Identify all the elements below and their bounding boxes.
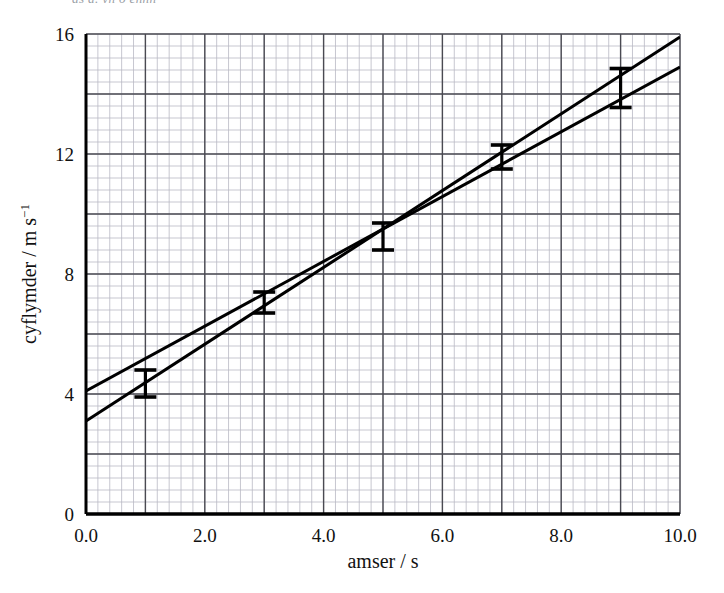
y-tick-label: 0	[65, 504, 75, 525]
y-tick-label: 12	[55, 144, 74, 165]
x-tick-label: 0.0	[74, 525, 98, 546]
y-axis-title: cyflymder / m s−1	[17, 204, 41, 344]
x-tick-label: 6.0	[431, 525, 455, 546]
y-tick-label: 8	[65, 264, 75, 285]
x-tick-label: 2.0	[193, 525, 217, 546]
figure-container: as a. yn o ennn 0481216 0.02.04.06.08.01…	[0, 0, 724, 593]
clipped-caption-text: as a. yn o ennn	[72, 0, 232, 3]
y-axis-title-main: cyflymder / m s	[18, 218, 41, 344]
x-tick-label: 10.0	[663, 525, 696, 546]
x-axis-tick-labels: 0.02.04.06.08.010.0	[74, 525, 697, 546]
y-axis-tick-labels: 0481216	[55, 24, 75, 525]
y-tick-label: 4	[65, 384, 75, 405]
y-tick-label: 16	[55, 24, 74, 45]
y-axis-title-exponent: −1	[17, 204, 32, 218]
x-tick-label: 8.0	[549, 525, 573, 546]
x-tick-label: 4.0	[312, 525, 336, 546]
x-axis-title: amser / s	[347, 550, 418, 572]
svg-text:cyflymder / m s−1: cyflymder / m s−1	[17, 204, 41, 344]
velocity-time-graph: 0481216 0.02.04.06.08.010.0 amser / s cy…	[0, 0, 724, 593]
